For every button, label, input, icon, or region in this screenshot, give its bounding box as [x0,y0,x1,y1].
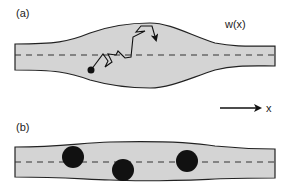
panel-b-label: (b) [16,121,29,133]
panel-a-label: (a) [16,7,29,19]
channel-b [15,142,275,181]
width-label: w(x) [224,18,246,30]
particle-b-1 [62,146,84,168]
particle-b-2 [112,159,134,181]
diagram: (a) w(x) x (b) [0,0,289,188]
particle-b-3 [176,150,198,172]
x-axis-label: x [266,102,272,114]
particle-a [88,67,95,74]
